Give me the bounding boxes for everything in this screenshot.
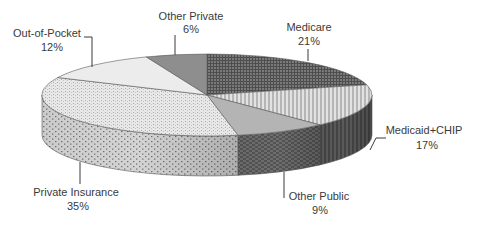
label-other-private: Other Private bbox=[159, 10, 224, 22]
leader-line bbox=[370, 138, 386, 150]
label-other-public: Other Public bbox=[289, 190, 350, 202]
pct-private-insurance: 35% bbox=[67, 200, 89, 212]
label-out-of-pocket: Out-of-Pocket bbox=[13, 27, 81, 39]
leader-line bbox=[84, 37, 92, 67]
pie-3d bbox=[42, 54, 372, 176]
pct-out-of-pocket: 12% bbox=[41, 41, 63, 53]
pie-chart: Other Private 6% Medicare 21% Out-of-Poc… bbox=[0, 0, 480, 225]
label-medicare: Medicare bbox=[286, 21, 331, 33]
label-private-insurance: Private Insurance bbox=[33, 186, 119, 198]
pct-other-public: 9% bbox=[312, 204, 328, 216]
pct-other-private: 6% bbox=[183, 23, 199, 35]
pct-medicaid-chip: 17% bbox=[416, 139, 438, 151]
label-medicaid-chip: Medicaid+CHIP bbox=[386, 124, 463, 136]
pct-medicare: 21% bbox=[298, 35, 320, 47]
